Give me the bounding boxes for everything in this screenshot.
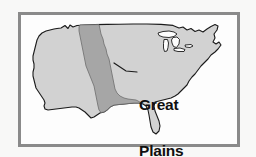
map-frame: Great Plains [18, 12, 240, 147]
lake-ontario [185, 45, 193, 48]
map-canvas: Great Plains [21, 15, 237, 144]
lake-michigan [164, 40, 169, 52]
figure-root: Great Plains [0, 0, 256, 157]
us-land-shape [33, 24, 221, 134]
great-plains-label-line-2: Plains [139, 143, 213, 157]
lake-superior [158, 31, 177, 38]
us-map-graphic [21, 15, 237, 144]
